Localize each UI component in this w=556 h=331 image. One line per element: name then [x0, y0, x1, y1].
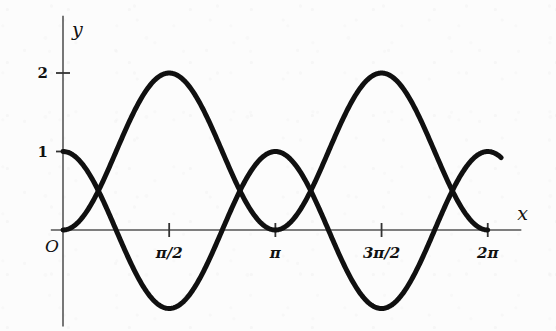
curves-group: [63, 73, 501, 309]
y-tick-label: 1: [38, 144, 48, 159]
y-axis-label: y: [72, 20, 83, 39]
x-tick-label: 2π: [477, 246, 498, 261]
x-tick-label: 3π/2: [363, 246, 400, 261]
origin-label: O: [45, 236, 59, 256]
x-tick-label: π: [270, 246, 281, 261]
plot-svg: [0, 0, 556, 331]
y-tick-label: 2: [38, 66, 48, 81]
x-tick-label: π/2: [156, 246, 183, 261]
axes-group: [51, 16, 521, 327]
x-axis-label: x: [517, 204, 528, 223]
figure-canvas: x y O π/2π3π/22π 12: [0, 0, 556, 331]
